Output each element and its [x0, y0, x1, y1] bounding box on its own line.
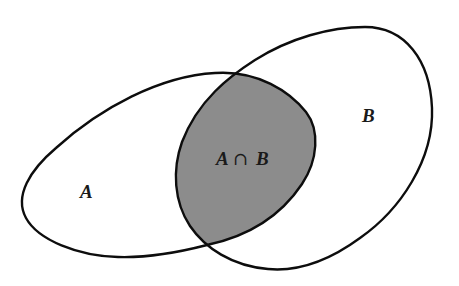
set-b-label: B — [361, 105, 375, 126]
venn-diagram: A B A ∩ B — [0, 0, 459, 286]
intersection-label: A ∩ B — [215, 148, 269, 169]
intersection-operator: ∩ — [233, 148, 248, 169]
intersection-label-a: A — [215, 148, 229, 169]
set-a-label: A — [79, 181, 93, 202]
intersection-region — [176, 27, 432, 269]
intersection-label-b: B — [255, 148, 269, 169]
